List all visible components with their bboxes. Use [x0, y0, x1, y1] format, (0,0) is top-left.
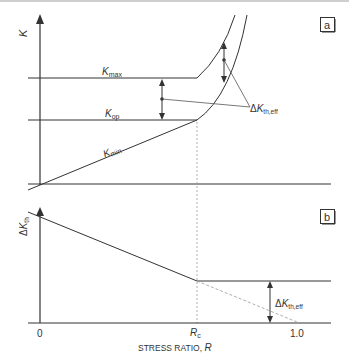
panel-a-badge-text: a [324, 19, 331, 31]
arrow-down-icon [159, 113, 165, 120]
kmax-curve [28, 15, 235, 78]
x-tick-rc: Rc [190, 327, 201, 339]
y-axis-arrowhead-icon [36, 14, 44, 24]
kmax-label: Kmax [102, 66, 122, 78]
delta-k-th-eff-label: ΔKth,eff [250, 103, 278, 115]
arrow-up-icon [267, 281, 273, 288]
arrow-down-icon [221, 76, 227, 83]
kmin-label: Kmin [101, 142, 122, 160]
arrow-down-icon [267, 316, 273, 323]
panel-b: ΔKth,eff ΔKth 0 Rc 1.0 STRESS RATIO, R b [18, 207, 335, 353]
leader-line [224, 60, 250, 107]
x-tick-zero: 0 [37, 328, 43, 339]
y-axis-arrowhead-icon [36, 207, 44, 216]
panel-a-y-label: K [17, 29, 29, 37]
kop-label: Kop [105, 108, 120, 121]
x-axis-label: STRESS RATIO, R [138, 342, 212, 353]
leader-line [162, 99, 250, 107]
x-tick-one: 1.0 [290, 328, 304, 339]
stress-ratio-diagram: K Kmax Kop Kmin ΔKth,eff a ΔKth,eff ΔKth… [0, 0, 349, 358]
panel-b-delta-k-th-eff-label: ΔKth,eff [275, 298, 303, 310]
delta-kth-line [28, 212, 331, 281]
panel-a: K Kmax Kop Kmin ΔKth,eff a [17, 14, 335, 190]
panel-b-y-label: ΔKth [18, 217, 30, 236]
panel-b-badge-text: b [324, 211, 330, 223]
arrow-up-icon [159, 79, 165, 86]
kop-curve [28, 15, 247, 120]
